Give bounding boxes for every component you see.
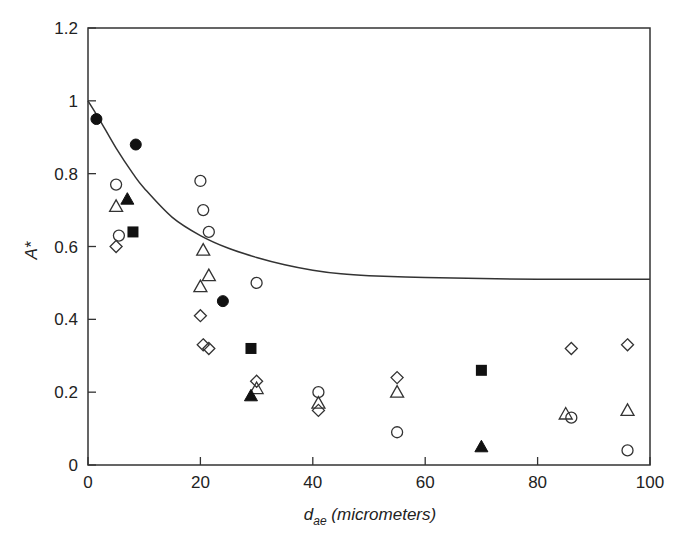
data-point-square-filled <box>245 343 256 354</box>
data-point-circle-filled <box>130 139 141 150</box>
x-tick-label: 0 <box>83 473 92 492</box>
data-point-triangle-open <box>194 280 207 292</box>
data-point-triangle-filled <box>121 193 134 205</box>
data-point-square-filled <box>127 226 138 237</box>
y-tick-label: 1.2 <box>54 19 78 38</box>
data-point-diamond-open <box>391 372 403 384</box>
y-tick-label: 1 <box>69 92 78 111</box>
data-point-diamond-open <box>110 241 122 253</box>
data-point-triangle-open <box>202 269 215 281</box>
data-point-circle-filled <box>91 114 102 125</box>
data-point-circle-open <box>195 175 206 186</box>
data-point-diamond-open <box>622 339 634 351</box>
y-tick-label: 0.6 <box>54 238 78 257</box>
data-point-triangle-open <box>312 397 325 409</box>
data-point-square-filled <box>476 365 487 376</box>
data-point-circle-open <box>198 205 209 216</box>
plot-frame <box>88 28 650 465</box>
y-axis: 00.20.40.60.811.2 <box>54 19 96 475</box>
data-point-diamond-open <box>565 342 577 354</box>
y-tick-label: 0.8 <box>54 165 78 184</box>
data-point-circle-open <box>251 277 262 288</box>
y-tick-label: 0 <box>69 456 78 475</box>
x-tick-label: 20 <box>191 473 210 492</box>
data-point-triangle-open <box>197 244 210 256</box>
x-axis-label-sub: ae <box>313 514 327 528</box>
data-point-circle-open <box>111 179 122 190</box>
x-tick-label: 80 <box>528 473 547 492</box>
x-axis-label: dae (micrometers) <box>304 505 436 528</box>
x-tick-label: 100 <box>636 473 664 492</box>
x-axis: 020406080100 <box>83 457 664 492</box>
data-point-diamond-open <box>312 404 324 416</box>
x-tick-label: 60 <box>416 473 435 492</box>
scatter-chart: 00.20.40.60.811.2 020406080100 A* dae (m… <box>0 0 691 546</box>
data-point-triangle-open <box>621 404 634 416</box>
data-point-circle-open <box>203 226 214 237</box>
data-point-circle-open <box>113 230 124 241</box>
data-point-triangle-filled <box>475 440 488 452</box>
model-curve <box>88 101 650 279</box>
data-point-diamond-open <box>194 310 206 322</box>
x-axis-label-rest: (micrometers) <box>327 505 437 524</box>
y-tick-label: 0.4 <box>54 310 78 329</box>
data-point-circle-open <box>392 427 403 438</box>
data-point-circle-filled <box>217 296 228 307</box>
data-point-triangle-open <box>391 386 404 398</box>
data-point-circle-open <box>622 445 633 456</box>
y-tick-label: 0.2 <box>54 383 78 402</box>
data-point-triangle-filled <box>244 389 257 401</box>
data-markers <box>91 114 634 456</box>
x-tick-label: 40 <box>303 473 322 492</box>
data-point-triangle-open <box>110 200 123 212</box>
y-axis-label: A* <box>22 240 41 260</box>
